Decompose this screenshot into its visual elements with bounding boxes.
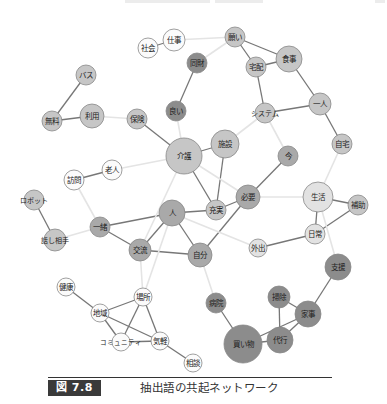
node-label: 食事	[282, 54, 297, 64]
node-hoken: 保険	[127, 109, 147, 129]
node-label: 自宅	[335, 139, 350, 149]
node-kaji: 家事	[295, 301, 321, 327]
node-basho: 場所	[134, 288, 152, 306]
node-label: 宅配	[249, 62, 264, 72]
node-shokuji: 食事	[276, 46, 302, 72]
node-shisetsu: 施設	[211, 130, 239, 158]
node-label: ロボット	[20, 197, 48, 205]
network-nodes: 仕事社会願い食事宅配同財バス良い無料利用保険システム一人介護施設自宅今老人訪問ロ…	[20, 27, 368, 372]
node-label: 日常	[308, 230, 322, 239]
node-ima: 今	[278, 146, 298, 166]
node-label: 支援	[331, 262, 346, 272]
node-label: 利用	[85, 111, 99, 121]
node-robot: ロボット	[20, 190, 48, 210]
node-label: 保険	[130, 115, 145, 124]
node-label: 地域	[93, 308, 108, 318]
node-label: 外出	[251, 243, 265, 253]
node-takuhai: 宅配	[246, 57, 266, 77]
node-koryu: 交流	[129, 239, 151, 261]
node-jibun: 自分	[188, 243, 212, 267]
node-chiiki: 地域	[91, 304, 109, 322]
node-label: バス	[79, 71, 93, 80]
node-label: 仕事	[167, 35, 182, 45]
node-community: コミュニティ	[100, 333, 142, 351]
node-label: 生活	[311, 192, 326, 202]
node-negai: 願い	[225, 27, 245, 47]
node-label: 社会	[141, 43, 156, 53]
node-label: 家事	[301, 309, 316, 319]
node-daiko: 代行	[267, 327, 293, 353]
node-label: 願い	[228, 33, 242, 42]
node-basu: バス	[76, 65, 96, 85]
figure-caption-text: 抽出語の共起ネットワーク	[140, 380, 278, 396]
node-shien: 支援	[325, 254, 351, 280]
node-kaigo: 介護	[166, 138, 202, 174]
node-seikatsu: 生活	[303, 182, 333, 212]
node-kaimono: 買い物	[224, 325, 262, 363]
node-label: 買い物	[233, 339, 255, 349]
node-gaishutsu: 外出	[249, 239, 267, 257]
node-hito: 人	[159, 200, 185, 226]
node-label: 代行	[273, 335, 288, 345]
node-jitaku: 自宅	[332, 134, 352, 154]
node-label: 今	[285, 151, 293, 161]
node-label: 掃除	[272, 292, 287, 302]
figure-caption: 図 7.8 抽出語の共起ネットワーク	[48, 377, 332, 398]
node-byoin: 病院	[206, 293, 226, 313]
figure-number-badge: 図 7.8	[48, 380, 101, 396]
node-rojin: 老人	[102, 160, 122, 180]
node-label: 病院	[209, 298, 224, 308]
node-label: 同財	[190, 58, 205, 68]
node-homon: 訪問	[64, 170, 84, 190]
node-hitori: 一人	[309, 93, 331, 115]
node-label: 介護	[177, 151, 192, 161]
node-dozai: 同財	[187, 53, 207, 73]
node-label: 施設	[218, 139, 233, 149]
node-hanashiaite: 話し相手	[41, 229, 69, 251]
node-label: 場所	[136, 292, 151, 302]
node-label: 自分	[193, 250, 208, 260]
node-sodan: 相談	[184, 354, 202, 372]
node-issho: 一緒	[90, 217, 110, 237]
node-label: 一人	[313, 100, 328, 109]
node-label: 交流	[133, 245, 148, 255]
node-kigaru: 気軽	[151, 332, 169, 350]
node-label: 充実	[209, 205, 224, 215]
node-label: 人	[169, 209, 177, 218]
node-yoi: 良い	[166, 101, 186, 121]
node-label: 良い	[169, 106, 183, 116]
node-label: 無料	[45, 116, 60, 126]
node-riyo: 利用	[80, 104, 104, 128]
node-label: 気軽	[153, 336, 168, 346]
node-muryo: 無料	[42, 111, 62, 131]
node-nichijo: 日常	[305, 224, 325, 244]
node-label: 一緒	[93, 222, 108, 232]
node-jujitsu: 充実	[206, 200, 226, 220]
co-occurrence-network: 仕事社会願い食事宅配同財バス良い無料利用保険システム一人介護施設自宅今老人訪問ロ…	[0, 0, 387, 404]
node-hitsuyo: 必要	[236, 185, 260, 209]
node-label: 補助	[351, 200, 365, 210]
node-label: 老人	[105, 165, 120, 175]
node-label: 訪問	[67, 175, 81, 185]
node-shakai: 社会	[138, 38, 158, 58]
node-label: 話し相手	[41, 236, 69, 245]
node-label: 相談	[186, 358, 201, 368]
node-soji: 掃除	[268, 286, 290, 308]
node-label: システム	[251, 110, 279, 118]
node-hojo: 補助	[348, 195, 368, 215]
node-label: コミュニティ	[100, 339, 142, 347]
node-shigoto: 仕事	[163, 29, 185, 51]
node-kenko: 健康	[57, 278, 75, 296]
node-label: 健康	[59, 282, 74, 292]
node-label: 必要	[241, 192, 256, 202]
